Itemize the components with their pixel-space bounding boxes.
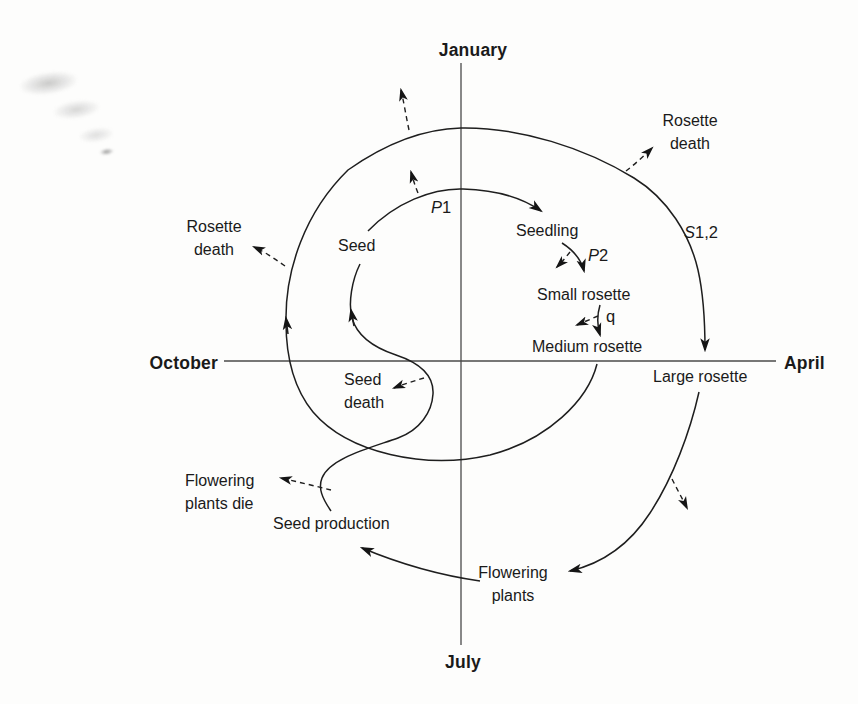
stage-flowering-plants: Flowering plants (467, 562, 559, 607)
q-text: q (606, 307, 615, 325)
death-label-rosette-left: Rosette death (173, 216, 255, 261)
month-label-july: July (445, 650, 481, 675)
s12-numbers: 1,2 (695, 223, 718, 241)
stage-seed: Seed (338, 235, 375, 258)
p1-letter: P (431, 198, 442, 216)
p2-letter: P (588, 246, 599, 264)
death-arrow-rosette-left (254, 247, 285, 266)
arc-seedling-to-small-rosette (562, 243, 584, 271)
stage-seedling: Seedling (516, 220, 578, 243)
death-label-flowering-plants: Flowering plants die (185, 470, 283, 515)
month-label-october: October (150, 351, 219, 376)
arc-small-to-medium-rosette (598, 305, 600, 335)
month-label-april: April (784, 351, 825, 376)
p2-number: 2 (599, 246, 608, 264)
transition-label-p1: P1 (431, 196, 451, 219)
death-arrow-top (401, 90, 409, 130)
stage-large-rosette: Large rosette (653, 366, 747, 389)
death-arrow-small-rosette (577, 316, 598, 325)
death-arrow-flowering-plants (281, 478, 331, 490)
death-arrow-seed-transition (411, 172, 418, 193)
death-arrow-bottom-right (672, 479, 687, 508)
stage-medium-rosette: Medium rosette (532, 336, 642, 359)
transition-label-p2: P2 (588, 244, 608, 267)
death-label-seed: Seed death (344, 369, 402, 414)
life-cycle-diagram: January April July October Seed Seedling… (0, 0, 858, 704)
transition-label-q: q (606, 305, 615, 328)
arc-flowering-plants-to-seed-production (362, 548, 480, 581)
stage-seed-production: Seed production (273, 513, 390, 536)
s12-letter: S (684, 223, 695, 241)
death-label-rosette-right: Rosette death (649, 110, 731, 155)
p1-number: 1 (442, 198, 451, 216)
month-label-january: January (439, 38, 508, 63)
death-arrow-seedling (557, 252, 570, 267)
arc-large-rosette-to-flowering-plants (570, 392, 699, 571)
transition-label-s12: S1,2 (684, 221, 718, 244)
diagram-canvas (0, 0, 858, 704)
stage-small-rosette: Small rosette (537, 284, 630, 307)
